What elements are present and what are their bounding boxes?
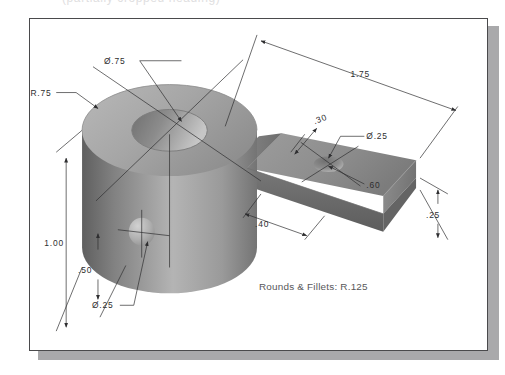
- cropped-title-bar: (partially cropped heading): [0, 0, 505, 13]
- cad-drawing-canvas: Ø.75 R.75 1.75 Ø.25 .30 .60 .40 .25 1.00…: [30, 19, 487, 350]
- arm-thickness-ext-top: [420, 178, 448, 194]
- dimension-label-hole-offset: .30: [312, 112, 329, 127]
- dimension-label-side-hole-height: .50: [78, 265, 92, 275]
- rounds-and-fillets-note: Rounds & Fillets: R.125: [259, 281, 368, 292]
- boss-height-ext-top: [56, 130, 82, 152]
- dimension-label-arm-thickness: .25: [426, 210, 440, 220]
- dimension-label-arm-width: .60: [366, 180, 380, 190]
- dimension-label-boss-height: 1.00: [44, 238, 64, 248]
- dimension-label-bore-diameter: Ø.75: [104, 56, 125, 66]
- overall-length-ext-right: [420, 106, 458, 158]
- cropped-title-text: (partially cropped heading): [62, 0, 220, 5]
- dimension-label-arm-hole-diameter: Ø.25: [366, 131, 387, 141]
- screenshot-root: (partially cropped heading): [0, 0, 505, 375]
- drawing-page: Ø.75 R.75 1.75 Ø.25 .30 .60 .40 .25 1.00…: [29, 18, 488, 351]
- dimension-label-overall-length: 1.75: [350, 69, 370, 79]
- arm-end-ext-b: [305, 216, 325, 240]
- boss-height-ext-bot: [56, 267, 82, 331]
- dimension-label-boss-radius: R.75: [30, 88, 51, 98]
- dimension-label-arm-end-distance: .40: [255, 219, 269, 229]
- boss-radius-leader-arrow: [76, 93, 98, 109]
- dimension-label-side-hole-diameter: Ø.25: [92, 300, 113, 310]
